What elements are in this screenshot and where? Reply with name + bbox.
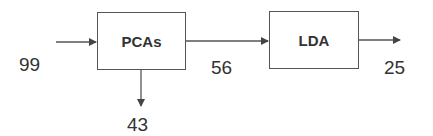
input-count-label: 99 xyxy=(19,55,40,74)
pcas-node: PCAs xyxy=(97,12,186,70)
lda-node: LDA xyxy=(269,11,359,69)
lda-label: LDA xyxy=(299,32,330,49)
discarded-count-label: 43 xyxy=(127,115,148,134)
intermediate-count-label: 56 xyxy=(211,58,232,77)
pcas-label: PCAs xyxy=(121,33,161,50)
output-count-label: 25 xyxy=(384,58,405,77)
